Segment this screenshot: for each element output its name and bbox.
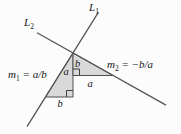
label-side-a-run-m2: a: [87, 78, 92, 89]
label-line-l2: L2: [23, 16, 34, 31]
label-slope-m2: m2 = −b/a: [107, 58, 154, 73]
label-line-l1: L1: [88, 1, 99, 16]
label-side-b-run-m1: b: [57, 98, 62, 109]
label-slope-m1: m1 = a/b: [8, 68, 47, 83]
label-side-a-rise-m1: a: [63, 66, 68, 77]
label-side-b-rise-m2: b: [75, 58, 80, 69]
perpendicular-lines-figure: L1 L2 m1 = a/b m2 = −b/a b a a b: [0, 0, 181, 134]
diagram-canvas: L1 L2 m1 = a/b m2 = −b/a b a a b: [0, 0, 181, 134]
